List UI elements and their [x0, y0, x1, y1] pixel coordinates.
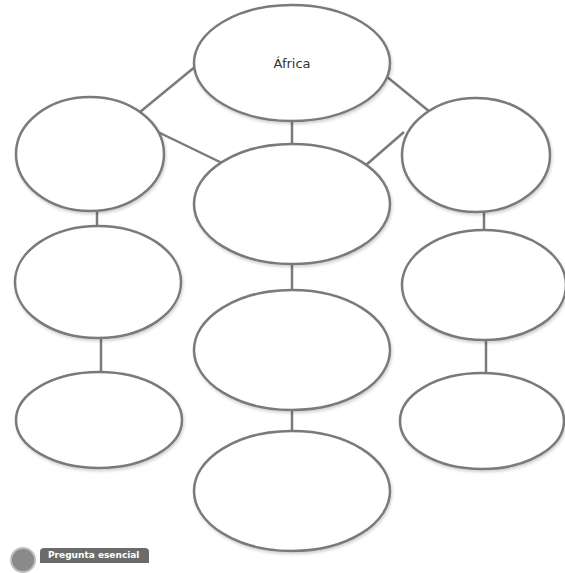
- connector-line: [386, 76, 430, 112]
- ellipse-node-center-3: [194, 431, 390, 551]
- node-label-top: África: [273, 56, 310, 71]
- connector-line: [140, 66, 196, 112]
- question-mark-icon: [10, 547, 36, 573]
- ellipse-node-left-2: [15, 226, 181, 338]
- ellipse-node-right-1: [402, 98, 550, 212]
- connector-line: [366, 132, 404, 165]
- ellipse-node-right-2: [402, 230, 565, 340]
- essential-question-badge: Pregunta esencial: [4, 547, 149, 563]
- ellipse-node-left-3: [16, 372, 182, 468]
- ellipse-nodes: [15, 5, 565, 551]
- ellipse-node-center-1: [194, 144, 390, 264]
- ellipse-node-left-1: [16, 97, 164, 211]
- connector-line: [158, 132, 222, 163]
- ellipse-node-center-2: [194, 290, 390, 410]
- ellipse-node-right-3: [400, 373, 564, 469]
- badge-label: Pregunta esencial: [40, 548, 149, 563]
